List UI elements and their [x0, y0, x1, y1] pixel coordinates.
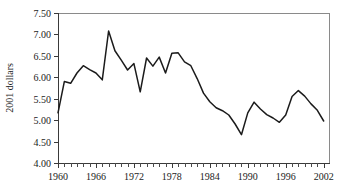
x-axis-tick-labels: 19601966197219781984199019962002 — [48, 171, 334, 182]
y-tick-label: 5.50 — [34, 94, 52, 105]
x-tick-label: 2002 — [314, 171, 334, 182]
line-chart: 7.507.006.506.005.505.004.504.00 1960196… — [0, 0, 342, 195]
x-tick-label: 1972 — [124, 171, 144, 182]
x-tick-label: 1966 — [86, 171, 106, 182]
y-tick-label: 6.00 — [34, 72, 52, 83]
x-tick-label: 1990 — [238, 171, 258, 182]
chart-container: 7.507.006.506.005.505.004.504.00 1960196… — [0, 0, 342, 195]
y-tick-label: 5.00 — [34, 115, 52, 126]
y-axis-title: 2001 dollars — [4, 63, 15, 113]
y-tick-label: 6.50 — [34, 51, 52, 62]
y-axis-title-text: 2001 dollars — [4, 63, 15, 113]
y-tick-label: 7.00 — [34, 29, 52, 40]
y-axis-ticks — [54, 14, 58, 164]
data-series-line — [58, 31, 324, 135]
y-tick-label: 4.50 — [34, 137, 52, 148]
y-axis-tick-labels: 7.507.006.506.005.505.004.504.00 — [34, 8, 52, 169]
y-tick-label: 4.00 — [34, 158, 52, 169]
x-tick-label: 1978 — [162, 171, 182, 182]
x-tick-label: 1984 — [200, 171, 220, 182]
x-tick-label: 1960 — [48, 171, 68, 182]
plot-frame — [58, 13, 330, 164]
y-tick-label: 7.50 — [34, 8, 52, 19]
x-tick-label: 1996 — [276, 171, 296, 182]
